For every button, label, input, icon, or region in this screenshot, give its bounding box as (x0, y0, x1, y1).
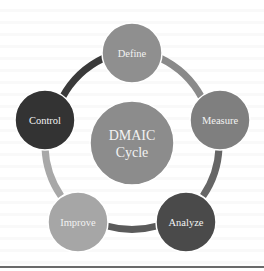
connector-improve-control (45, 148, 61, 196)
stage-control-label: Control (29, 115, 61, 126)
dmaic-diagram: DMAIC Cycle Define Measure Analyze Impro… (0, 0, 264, 271)
connector-define-measure (160, 58, 202, 98)
stage-control: Control (15, 90, 75, 150)
center-node: DMAIC Cycle (90, 101, 174, 185)
center-label-line1: DMAIC (109, 128, 156, 143)
stage-measure-label: Measure (202, 115, 238, 126)
center-label-line2: Cycle (116, 145, 149, 160)
connector-measure-analyze (203, 148, 219, 196)
horizontal-divider (0, 266, 264, 268)
dmaic-cycle-graphic: DMAIC Cycle Define Measure Analyze Impro… (0, 0, 264, 271)
stage-improve: Improve (48, 192, 108, 252)
stage-measure: Measure (190, 90, 250, 150)
stage-define: Define (102, 23, 162, 83)
stage-analyze: Analyze (156, 192, 216, 252)
stage-define-label: Define (118, 48, 147, 59)
stage-improve-label: Improve (60, 217, 96, 228)
stage-analyze-label: Analyze (169, 217, 204, 228)
connector-analyze-improve (107, 226, 157, 229)
connector-control-define (62, 58, 104, 98)
